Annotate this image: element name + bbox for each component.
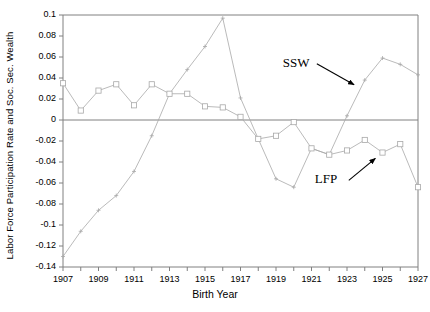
- data-point-marker: [398, 142, 403, 147]
- data-point-marker: [220, 105, 225, 110]
- data-point-marker: [327, 152, 332, 157]
- data-point-marker: [150, 134, 154, 138]
- data-point-marker: [362, 137, 367, 142]
- data-point-marker: [202, 104, 207, 109]
- data-point-marker: [60, 81, 65, 86]
- chart-container: Labor Force Participation Rate and Soc. …: [0, 0, 430, 312]
- data-point-marker: [415, 185, 420, 190]
- data-point-marker: [380, 150, 385, 155]
- data-point-marker: [416, 73, 420, 77]
- annotation-arrows: [317, 64, 376, 181]
- annotation-arrow-lfp: [349, 158, 376, 180]
- data-point-marker: [238, 114, 243, 119]
- data-point-marker: [78, 108, 83, 113]
- axis-ticks: [59, 15, 418, 271]
- data-point-marker: [345, 114, 349, 118]
- series-annotation-label-lfp: LFP: [315, 171, 337, 187]
- data-point-marker: [149, 82, 154, 87]
- data-point-marker: [131, 103, 136, 108]
- annotation-arrow-ssw: [317, 64, 354, 85]
- data-point-marker: [239, 96, 243, 100]
- data-point-marker: [221, 16, 225, 20]
- data-point-marker: [256, 136, 261, 141]
- data-point-marker: [274, 177, 278, 181]
- data-point-marker: [96, 88, 101, 93]
- data-point-marker: [273, 133, 278, 138]
- data-point-marker: [309, 146, 314, 151]
- data-point-marker: [344, 148, 349, 153]
- data-point-marker: [114, 82, 119, 87]
- data-point-marker: [167, 91, 172, 96]
- data-point-marker: [398, 62, 402, 66]
- plot-svg: [0, 0, 430, 312]
- data-point-marker: [292, 185, 296, 189]
- data-point-marker: [185, 91, 190, 96]
- series-annotation-label-ssw: SSW: [283, 55, 310, 71]
- data-point-marker: [291, 120, 296, 125]
- data-series-layer: [60, 16, 420, 258]
